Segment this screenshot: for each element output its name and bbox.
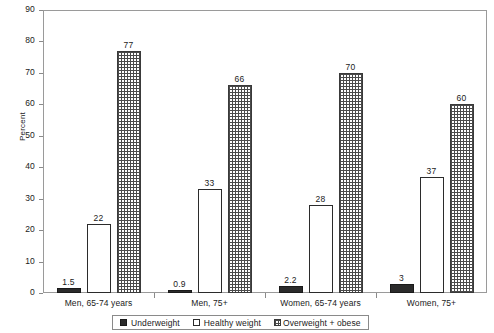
bar-healthy-3 [420,177,444,293]
bars-layer [43,10,487,293]
value-label-underweight-2: 2.2 [273,275,309,285]
bar-healthy-0 [87,224,111,293]
bar-overweight-0 [117,51,141,293]
y-axis-tick-label: 90 [25,4,35,14]
bar-healthy-1 [198,189,222,293]
y-axis-tick-60: 60 [0,104,43,105]
legend-item-healthy: Healthy weight [193,318,261,328]
bar-underweight-0 [57,288,81,293]
value-label-underweight-1: 0.9 [162,279,198,289]
legend-item-underweight: Underweight [120,318,180,328]
bar-overweight-2 [339,73,363,293]
y-axis-tick-40: 40 [0,167,43,168]
solid-black-square-icon [120,319,127,326]
legend-item-overweight: Overweight + obese [274,318,361,328]
value-label-healthy-2: 28 [303,194,339,204]
value-label-overweight-1: 66 [222,74,258,84]
value-label-overweight-0: 77 [111,40,147,50]
y-axis-tick-50: 50 [0,136,43,137]
y-axis-tick-90: 90 [0,10,43,11]
chart-legend: UnderweightHealthy weightOverweight + ob… [112,315,369,330]
y-axis-tick-70: 70 [0,73,43,74]
x-axis-category-label: Men, 65-74 years [43,298,154,308]
y-axis-tick-label: 60 [25,98,35,108]
y-axis-tick-label: 80 [25,35,35,45]
y-axis-tick-80: 80 [0,41,43,42]
y-axis-tick-label: 20 [25,224,35,234]
value-label-overweight-2: 70 [333,62,369,72]
value-label-healthy-1: 33 [192,178,228,188]
y-axis-tick-label: 70 [25,67,35,77]
bar-overweight-3 [450,104,474,293]
y-axis-tick-label: 40 [25,161,35,171]
bar-healthy-2 [309,205,333,293]
legend-label: Underweight [131,318,180,328]
y-axis-tick-label: 10 [25,256,35,266]
value-label-underweight-3: 3 [384,273,420,283]
value-label-healthy-0: 22 [81,213,117,223]
x-axis-category-label: Women, 75+ [376,298,487,308]
bar-underweight-3 [390,284,414,293]
value-label-healthy-3: 37 [414,166,450,176]
bar-chart: Percent 0102030405060708090 1.522770.933… [0,0,494,333]
bar-overweight-1 [228,85,252,293]
cross-hatch-square-icon [274,319,281,326]
y-axis-tick-label: 0 [30,287,35,297]
y-axis-tick-0: 0 [0,293,43,294]
value-label-overweight-3: 60 [444,93,480,103]
value-label-underweight-0: 1.5 [51,277,87,287]
y-axis-tick-30: 30 [0,199,43,200]
x-axis-category-label: Men, 75+ [154,298,265,308]
legend-label: Overweight + obese [283,318,361,328]
bar-underweight-1 [168,290,192,293]
y-axis-tick-20: 20 [0,230,43,231]
y-axis-tick-mark [39,293,43,294]
white-square-icon [193,319,200,326]
y-axis-tick-label: 50 [25,130,35,140]
y-axis-tick-label: 30 [25,193,35,203]
y-axis-tick-10: 10 [0,262,43,263]
x-axis-category-label: Women, 65-74 years [265,298,376,308]
legend-label: Healthy weight [204,318,261,328]
bar-underweight-2 [279,286,303,293]
